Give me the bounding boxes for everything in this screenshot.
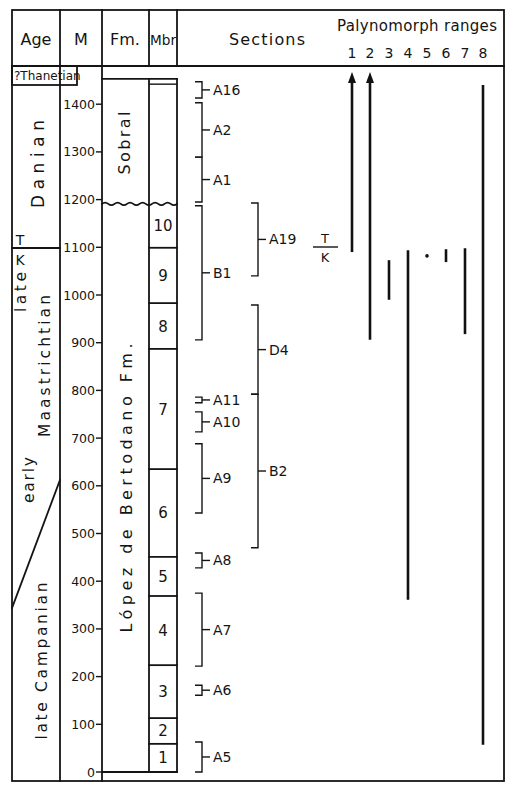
section-label: A1: [213, 172, 231, 188]
stratigraphic-range-chart: Age M Fm. Mbr Sections Palynomorph range…: [0, 0, 513, 791]
range-number-2: 2: [366, 45, 375, 61]
section-b1: B1: [195, 206, 232, 340]
section-label: A5: [213, 749, 231, 765]
section-bracket: [195, 103, 202, 157]
age-k-label: K: [15, 252, 25, 268]
meter-axis: 0100200300400500600700800900100011001200…: [63, 97, 102, 780]
axis-tick-label: 1200: [63, 192, 95, 207]
section-d4: D4: [251, 305, 289, 394]
axis-tick-label: 700: [71, 431, 95, 446]
header-palynomorph-ranges: Palynomorph ranges: [337, 17, 497, 35]
member-label: 3: [158, 683, 168, 701]
member-label: 7: [158, 401, 168, 419]
member-label: 5: [158, 568, 168, 586]
member-label: 4: [158, 622, 168, 640]
section-label: A16: [213, 82, 240, 98]
axis-tick-label: 500: [71, 526, 95, 541]
section-label: A10: [213, 414, 240, 430]
header-sections: Sections: [229, 30, 305, 49]
range-number-1: 1: [348, 45, 357, 61]
age-thanetian: ?Thanetian: [14, 69, 81, 83]
axis-tick-label: 200: [71, 669, 95, 684]
age-early-qualifier: early: [20, 457, 38, 503]
header-row: Age M Fm. Mbr Sections Palynomorph range…: [21, 17, 498, 61]
tk-boundary-marker: T K: [313, 231, 338, 265]
range-number-7: 7: [461, 45, 470, 61]
section-bracket: [195, 82, 202, 98]
axis-tick-label: 1400: [63, 97, 95, 112]
section-label: A8: [213, 552, 231, 568]
range-taxon-2: [366, 72, 374, 340]
section-label: B2: [269, 463, 288, 479]
age-t-label: T: [15, 232, 25, 248]
member-label: 1: [158, 749, 168, 767]
header-fm: Fm.: [110, 30, 140, 49]
section-a8: A8: [195, 552, 231, 568]
age-danian: Danian: [28, 120, 48, 208]
section-label: A7: [213, 622, 231, 638]
section-bracket: [195, 397, 202, 403]
member-label: 8: [158, 318, 168, 336]
section-label: A6: [213, 682, 232, 698]
section-a11: A11: [195, 392, 240, 408]
section-a5: A5: [195, 742, 231, 772]
member-label: 10: [153, 217, 172, 235]
range-number-8: 8: [479, 45, 488, 61]
range-number-row: 12345678: [348, 45, 488, 61]
section-bracket: [251, 305, 258, 394]
section-bracket: [195, 742, 202, 772]
section-label: A9: [213, 470, 231, 486]
axis-tick-label: 0: [87, 765, 95, 780]
range-taxon-5: [425, 254, 429, 258]
axis-tick-label: 1100: [63, 240, 95, 255]
tk-marker-t: T: [320, 231, 329, 246]
section-bracket: [195, 157, 202, 202]
range-number-6: 6: [442, 45, 451, 61]
age-column: ?Thanetian Danian T K late Maastrichtian…: [12, 66, 81, 740]
header-m: M: [74, 30, 88, 49]
axis-tick-label: 400: [71, 574, 95, 589]
axis-tick-label: 1300: [63, 144, 95, 159]
axis-tick-label: 300: [71, 621, 95, 636]
section-bracket: [251, 394, 258, 548]
member-label: 2: [158, 722, 168, 740]
lithostratigraphic-columns: Sobral López de Bertodano Fm. 1234567891…: [102, 79, 177, 772]
axis-tick-label: 100: [71, 717, 95, 732]
tk-marker-k: K: [321, 250, 330, 265]
section-a9: A9: [195, 444, 231, 513]
section-bracket: [195, 206, 202, 340]
section-a1: A1: [195, 157, 231, 202]
age-late-maastrichtian-qualifier: late: [12, 272, 30, 312]
section-a7: A7: [195, 593, 231, 666]
sections-column: A16A2A1B1A11A10A9A8A7A6A5A19D4B2: [195, 82, 296, 772]
section-bracket: [195, 593, 202, 666]
formation-sobral: Sobral: [115, 112, 134, 175]
section-label: A11: [213, 392, 240, 408]
age-maastrichtian: Maastrichtian: [36, 295, 54, 437]
axis-tick-label: 900: [71, 335, 95, 350]
section-bracket: [195, 685, 202, 695]
arrow-up-icon: [348, 72, 356, 83]
section-a6: A6: [195, 682, 232, 698]
axis-tick-label: 800: [71, 383, 95, 398]
header-age: Age: [21, 30, 52, 49]
arrow-up-icon: [366, 72, 374, 83]
section-label: B1: [213, 265, 232, 281]
section-a2: A2: [195, 103, 231, 157]
range-number-3: 3: [385, 45, 394, 61]
palynomorph-ranges: [348, 72, 483, 745]
section-label: A2: [213, 122, 231, 138]
age-late-campanian: late Campanian: [33, 583, 51, 740]
section-bracket: [195, 412, 202, 432]
section-a16: A16: [195, 82, 240, 98]
section-b2: B2: [251, 394, 288, 548]
section-label: D4: [269, 342, 289, 358]
member-label: 9: [158, 267, 168, 285]
section-label: A19: [269, 231, 296, 247]
section-bracket: [195, 444, 202, 513]
header-mbr: Mbr: [150, 32, 176, 48]
formation-lopez-de-bertodano: López de Bertodano Fm.: [117, 344, 136, 633]
range-taxon-1: [348, 72, 356, 252]
section-bracket: [195, 553, 202, 568]
section-a10: A10: [195, 412, 240, 432]
